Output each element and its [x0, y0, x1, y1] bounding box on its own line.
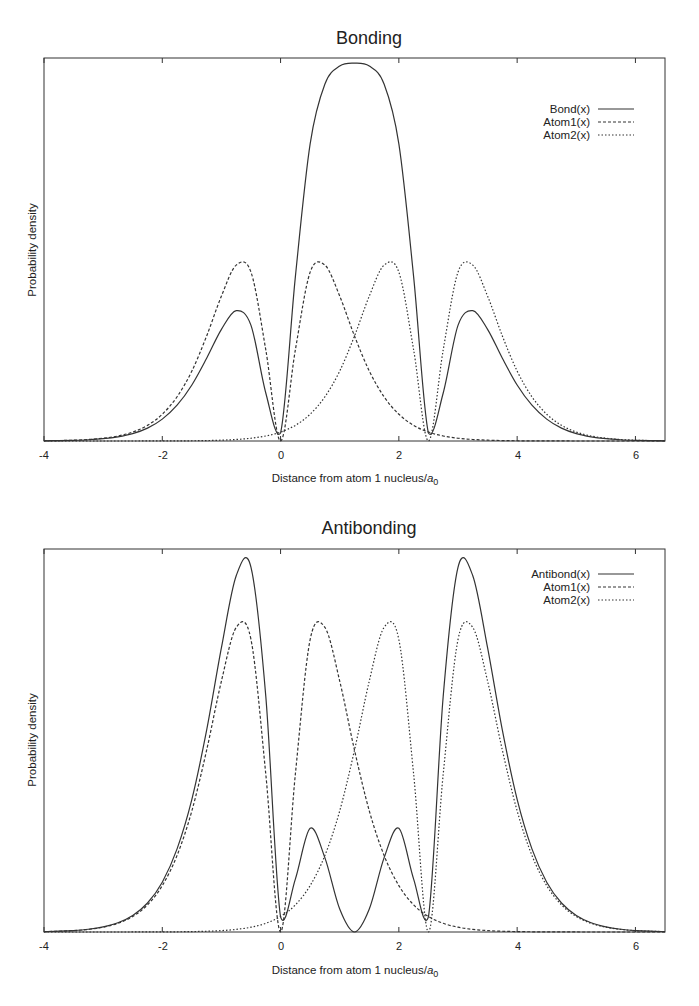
legend-label-atom1: Atom1(x) [543, 581, 590, 593]
antibonding-title: Antibonding [321, 518, 416, 538]
x-tick-label: 4 [515, 449, 521, 461]
legend-label-atom1: Atom1(x) [543, 116, 590, 128]
bonding-title: Bonding [336, 28, 402, 48]
legend-label-bond: Bond(x) [550, 103, 590, 115]
bonding-legend: Bond(x) Atom1(x) Atom2(x) [543, 103, 634, 141]
antibonding-tick-labels: -4 -2 0 2 4 6 [39, 940, 639, 952]
bonding-plot: Bonding -4 -2 0 2 4 6 Distance from atom… [26, 28, 665, 487]
x-tick-label: 6 [633, 940, 639, 952]
x-tick-label: 0 [278, 449, 284, 461]
series-line-atom1x [44, 622, 665, 932]
antibonding-curves [44, 558, 665, 932]
antibonding-y-axis-label: Probability density [26, 693, 38, 787]
antibonding-legend: Antibond(x) Atom1(x) Atom2(x) [531, 568, 634, 606]
x-tick-label: 2 [396, 940, 402, 952]
antibonding-plot: Antibonding -4 -2 0 2 4 6 Distance from … [26, 518, 665, 979]
bonding-tick-labels: -4 -2 0 2 4 6 [39, 449, 639, 461]
series-line-antibondx [44, 558, 665, 932]
bonding-x-axis-label: Distance from atom 1 nucleus/a0 [272, 472, 439, 487]
bonding-y-axis-label: Probability density [26, 203, 38, 297]
antibonding-ticks [44, 549, 635, 932]
series-line-atom2x [44, 262, 665, 441]
x-tick-label: -2 [158, 449, 168, 461]
x-tick-label: -4 [39, 449, 49, 461]
x-tick-label: 4 [515, 940, 521, 952]
antibonding-plot-frame [44, 549, 665, 932]
series-line-atom1x [44, 262, 665, 441]
legend-label-atom2: Atom2(x) [543, 129, 590, 141]
x-tick-label: -4 [39, 940, 49, 952]
x-tick-label: 2 [396, 449, 402, 461]
series-line-atom2x [44, 622, 665, 932]
x-tick-label: 0 [278, 940, 284, 952]
legend-label-antibond: Antibond(x) [531, 568, 590, 580]
legend-label-atom2: Atom2(x) [543, 594, 590, 606]
antibonding-x-axis-label: Distance from atom 1 nucleus/a0 [272, 964, 439, 979]
chart-canvas: Bonding -4 -2 0 2 4 6 Distance from atom… [0, 0, 699, 1006]
x-tick-label: -2 [158, 940, 168, 952]
x-tick-label: 6 [633, 449, 639, 461]
